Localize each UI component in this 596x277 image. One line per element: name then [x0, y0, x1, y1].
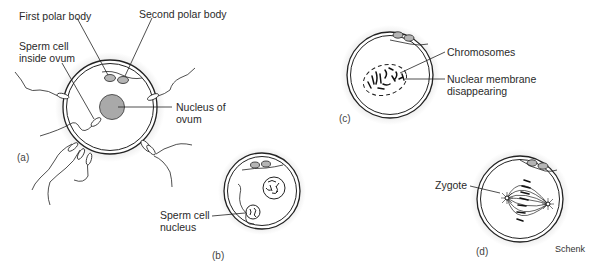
panel-label-b: (b) — [212, 250, 224, 261]
label-sperm-cell-nucleus: Sperm cell nucleus — [160, 209, 210, 233]
panel-label-d: (d) — [476, 246, 488, 257]
label-sperm-cell-inside-ovum: Sperm cell inside ovum — [19, 40, 75, 64]
label-first-polar-body: First polar body — [19, 10, 91, 22]
second-polar-body — [118, 77, 129, 84]
fertilization-diagram: First polar body Second polar body Sperm… — [0, 0, 596, 277]
panel-c-ovum — [340, 25, 445, 125]
panel-label-a: (a) — [17, 152, 29, 163]
panel-d-zygote — [470, 149, 570, 249]
artist-credit: Schenk — [555, 244, 585, 254]
label-zygote: Zygote — [435, 179, 467, 191]
label-second-polar-body: Second polar body — [139, 8, 227, 20]
first-polar-body — [105, 75, 116, 82]
label-nucleus-of-ovum: Nucleus of ovum — [176, 101, 226, 125]
panel-label-c: (c) — [339, 113, 351, 124]
diagram-artwork — [0, 0, 596, 277]
panel-b-ovum — [212, 147, 306, 235]
label-chromosomes: Chromosomes — [447, 46, 515, 58]
label-nuclear-membrane-disappearing: Nuclear membrane disappearing — [447, 73, 536, 97]
sperm-cell-nucleus — [246, 205, 260, 219]
